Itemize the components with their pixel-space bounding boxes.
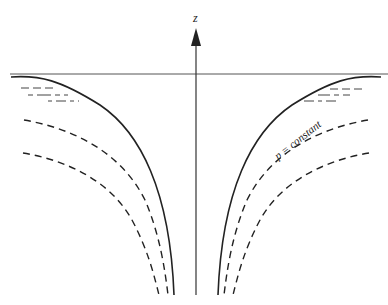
pressure-label: p = constant bbox=[271, 117, 324, 162]
axis-arrow-icon bbox=[191, 28, 201, 46]
pressure-curve-left-1 bbox=[24, 120, 168, 295]
vortex-diagram: z p = constant bbox=[0, 0, 388, 305]
pressure-curve-left-2 bbox=[23, 153, 159, 295]
free-surface-left bbox=[11, 77, 174, 295]
water-hatching-left bbox=[21, 88, 79, 101]
pressure-curve-right-2 bbox=[233, 153, 369, 295]
water-hatching-right bbox=[304, 89, 362, 101]
z-axis-label: z bbox=[192, 11, 198, 25]
free-surface-right bbox=[218, 77, 381, 295]
